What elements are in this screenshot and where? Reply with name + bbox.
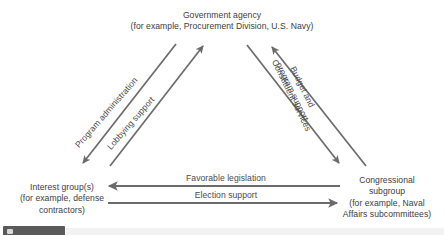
node-congressional-subgroup: Congressional subgroup (for example, Nav… [330, 175, 444, 220]
node-government-agency-line-1: Government agency [0, 10, 444, 21]
diagram-canvas: Government agency (for example, Procurem… [0, 0, 444, 235]
node-government-agency-line-2: (for example, Procurement Division, U.S.… [0, 21, 444, 32]
node-congressional-subgroup-line-3: (for example, Naval [330, 198, 444, 209]
node-interest-group: Interest group(s) (for example, defense … [0, 182, 124, 216]
node-interest-group-line-3: contractors) [0, 205, 124, 216]
node-congressional-subgroup-line-1: Congressional [330, 175, 444, 186]
node-congressional-subgroup-line-2: subgroup [330, 186, 444, 197]
edge-label-election-support: Election support [112, 190, 340, 201]
edge-label-favorable-legislation-line-1: Favorable legislation [112, 173, 340, 184]
arrow-lobbying-support [110, 46, 203, 166]
bottom-strip [66, 228, 444, 235]
node-interest-group-line-1: Interest group(s) [0, 182, 124, 193]
bottom-chip[interactable] [3, 226, 65, 235]
node-interest-group-line-2: (for example, defense [0, 193, 124, 204]
node-government-agency: Government agency (for example, Procurem… [0, 10, 444, 33]
arrow-program-administration [83, 44, 176, 163]
edge-label-favorable-legislation: Favorable legislation [112, 173, 340, 184]
edge-label-election-support-line-1: Election support [112, 190, 340, 201]
document-icon [7, 229, 13, 234]
node-congressional-subgroup-line-4: Affairs subcommittees) [330, 209, 444, 220]
